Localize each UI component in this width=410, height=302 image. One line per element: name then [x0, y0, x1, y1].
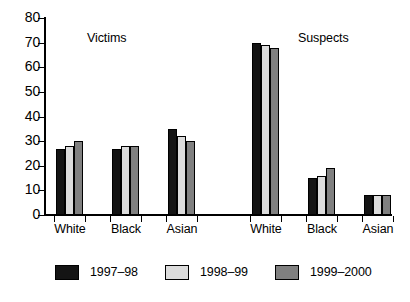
y-tick-label: 0 — [14, 207, 40, 221]
x-category-label: Asian — [346, 222, 410, 236]
bar — [121, 146, 130, 215]
plot-area — [44, 18, 392, 215]
bar — [364, 195, 373, 215]
legend-label: 1997–98 — [90, 265, 138, 279]
bar — [261, 45, 270, 215]
legend-item: 1998–99 — [165, 262, 248, 282]
y-tick-label: 40 — [14, 109, 40, 123]
y-tick-label: 20 — [14, 158, 40, 172]
bar-chart: Victims Suspects 01020304050607080 White… — [0, 0, 410, 302]
bar — [74, 141, 83, 215]
legend-item: 1997–98 — [55, 262, 138, 282]
y-tick-label: 80 — [14, 10, 40, 24]
legend-swatch — [275, 265, 299, 280]
bar-group — [56, 18, 83, 215]
legend-item: 1999–2000 — [275, 262, 372, 282]
legend-swatch — [165, 265, 189, 280]
bar — [130, 146, 139, 215]
bar-group — [308, 18, 335, 215]
bar — [270, 48, 279, 215]
y-tick-label: 70 — [14, 35, 40, 49]
bar — [382, 195, 391, 215]
y-tick-label: 60 — [14, 59, 40, 73]
x-category-label: White — [38, 222, 102, 236]
bar — [56, 149, 65, 215]
bar — [252, 43, 261, 215]
chart-legend: 1997–981998–991999–2000 — [55, 262, 365, 284]
bar-group — [364, 18, 391, 215]
x-category-label: White — [234, 222, 298, 236]
bar — [186, 141, 195, 215]
bar-group — [168, 18, 195, 215]
legend-label: 1999–2000 — [310, 265, 372, 279]
x-category-label: Black — [290, 222, 354, 236]
legend-label: 1998–99 — [200, 265, 248, 279]
bar — [326, 168, 335, 215]
bar — [317, 176, 326, 215]
y-tick-label: 30 — [14, 133, 40, 147]
bar — [65, 146, 74, 215]
y-tick-label: 50 — [14, 84, 40, 98]
x-category-label: Asian — [150, 222, 214, 236]
bar — [308, 178, 317, 215]
bar-group — [112, 18, 139, 215]
x-category-label: Black — [94, 222, 158, 236]
bar — [177, 136, 186, 215]
bar — [168, 129, 177, 215]
legend-swatch — [55, 265, 79, 280]
bar — [112, 149, 121, 215]
bar-group — [252, 18, 279, 215]
bar — [373, 195, 382, 215]
y-tick-label: 10 — [14, 182, 40, 196]
